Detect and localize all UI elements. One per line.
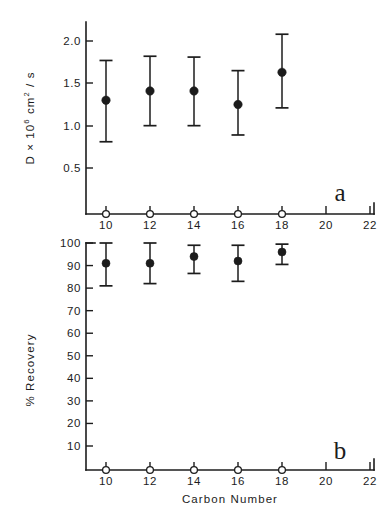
- panel-b-ytick-8: 20: [67, 417, 81, 429]
- baseline-marker-open-circle-c12: [147, 211, 154, 218]
- marker-filled-circle: [102, 259, 110, 267]
- baseline-marker-open-circle-c12: [147, 467, 154, 474]
- panel-b-y-ticklabels: 100908070605040302010: [60, 237, 81, 452]
- marker-filled-circle: [146, 87, 154, 95]
- data-point-c12-panel-b: [144, 243, 157, 284]
- baseline-marker-open-circle-c16: [235, 467, 242, 474]
- data-point-c10-panel-a: [100, 60, 113, 141]
- panel-a-x-ticklabels: 10 12 14 16 18 20 22: [99, 219, 377, 231]
- panel-b-ytick-0: 100: [60, 237, 81, 249]
- panel-a-xtick-6: 22: [363, 219, 377, 231]
- baseline-marker-open-circle-c14: [191, 467, 198, 474]
- panel-b-x-ticklabels: 10 12 14 16 18 20 22: [99, 475, 377, 487]
- panel-b-xtick-6: 22: [363, 475, 377, 487]
- panel-b-data-series: [100, 243, 289, 286]
- panel-b-y-ticks: [86, 243, 93, 446]
- panel-b-ylabel: % Recovery: [24, 334, 36, 407]
- panel-a-ytick-1: 1.5: [63, 77, 81, 89]
- baseline-marker-open-circle-c18: [279, 211, 286, 218]
- marker-filled-circle: [190, 87, 198, 95]
- panel-a-ytick-2: 1.0: [63, 120, 81, 132]
- data-point-c18-panel-b: [276, 244, 289, 264]
- data-point-c10-panel-b: [100, 243, 113, 286]
- panel-a-y-ticklabels: 2.0 1.5 1.0 0.5: [63, 35, 81, 174]
- panel-a-letter: a: [334, 179, 345, 206]
- panel-b-xtick-3: 16: [231, 475, 245, 487]
- panel-a-xtick-3: 16: [231, 219, 245, 231]
- panel-b-xtick-5: 20: [319, 475, 333, 487]
- baseline-marker-open-circle-c16: [235, 211, 242, 218]
- panel-a: 2.0 1.5 1.0 0.5 D × 106 cm2 / s: [22, 22, 377, 231]
- panel-b-letter: b: [334, 437, 347, 464]
- data-point-c16-panel-b: [232, 245, 245, 281]
- panel-a-ylabel-lead: D × 10: [24, 124, 36, 165]
- baseline-marker-open-circle-c10: [103, 467, 110, 474]
- panel-a-data-series: [100, 34, 289, 142]
- panel-b-ytick-5: 50: [67, 350, 81, 362]
- panel-b-ytick-7: 30: [67, 395, 81, 407]
- panel-b-xlabel: Carbon Number: [182, 493, 278, 505]
- baseline-marker-open-circle-c18: [279, 467, 286, 474]
- panel-b-ytick-1: 90: [67, 260, 81, 272]
- panel-b-ytick-6: 40: [67, 372, 81, 384]
- panel-b-y-axis-title: % Recovery: [24, 334, 36, 407]
- panel-b-xtick-1: 12: [143, 475, 157, 487]
- panel-b-xtick-4: 18: [275, 475, 289, 487]
- marker-filled-circle: [190, 253, 198, 261]
- panel-a-ylabel-tail-end: / s: [24, 71, 36, 91]
- data-point-c16-panel-a: [232, 71, 245, 135]
- panel-b: 100908070605040302010 % Recovery 10 12 1…: [24, 237, 377, 505]
- panel-a-y-axis-title: D × 106 cm2 / s: [22, 71, 36, 164]
- panel-b-ytick-3: 70: [67, 305, 81, 317]
- panel-b-xtick-2: 14: [187, 475, 201, 487]
- panel-b-ytick-4: 60: [67, 327, 81, 339]
- marker-filled-circle: [146, 259, 154, 267]
- panel-b-xtick-0: 10: [99, 475, 113, 487]
- panel-a-ytick-0: 2.0: [63, 35, 81, 47]
- data-point-c14-panel-a: [188, 57, 201, 126]
- panel-a-y-ticks: [86, 41, 93, 168]
- svg-text:D × 106 cm2 / s: D × 106 cm2 / s: [22, 71, 36, 164]
- marker-filled-circle: [234, 257, 242, 265]
- data-point-c12-panel-a: [144, 56, 157, 125]
- panel-a-ylabel-tail: cm: [24, 97, 36, 119]
- marker-filled-circle: [102, 96, 110, 104]
- panel-a-xtick-4: 18: [275, 219, 289, 231]
- marker-filled-circle: [234, 100, 242, 108]
- data-point-c18-panel-a: [276, 34, 289, 108]
- baseline-marker-open-circle-c14: [191, 211, 198, 218]
- marker-filled-circle: [278, 248, 286, 256]
- marker-filled-circle: [278, 68, 286, 76]
- panel-b-ytick-2: 80: [67, 282, 81, 294]
- panel-a-xtick-2: 14: [187, 219, 201, 231]
- panel-a-xtick-0: 10: [99, 219, 113, 231]
- panel-b-ytick-9: 10: [67, 440, 81, 452]
- data-point-c14-panel-b: [188, 245, 201, 273]
- panel-a-xtick-5: 20: [319, 219, 333, 231]
- panel-a-ytick-3: 0.5: [63, 162, 81, 174]
- panel-a-xtick-1: 12: [143, 219, 157, 231]
- figure-svg: 2.0 1.5 1.0 0.5 D × 106 cm2 / s: [0, 0, 392, 525]
- baseline-marker-open-circle-c10: [103, 211, 110, 218]
- figure-root: 2.0 1.5 1.0 0.5 D × 106 cm2 / s: [0, 0, 392, 525]
